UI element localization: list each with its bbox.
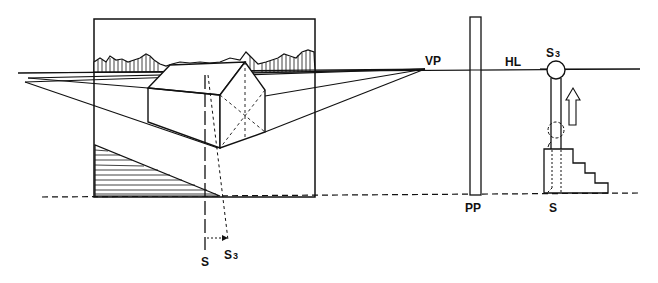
vp-label: VP xyxy=(425,54,441,68)
ground-shade xyxy=(95,145,220,196)
raised-eye-circle xyxy=(547,61,565,79)
s-label-bottom: S xyxy=(201,255,209,269)
up-arrow-icon xyxy=(566,88,580,125)
picture-plane xyxy=(470,17,481,195)
hl-label: HL xyxy=(505,55,521,69)
platform-hidden-lines xyxy=(547,150,561,193)
perspective-diagram: VP HL PP S S3 S S3 xyxy=(0,0,658,283)
convergence-line xyxy=(265,69,425,132)
s3-label-bottom: S3 xyxy=(224,248,238,262)
s-label-right: S xyxy=(549,201,557,215)
pp-label: PP xyxy=(465,201,481,215)
stair-platform xyxy=(544,149,608,193)
house xyxy=(148,62,265,148)
s3-label-right: S3 xyxy=(546,46,560,60)
